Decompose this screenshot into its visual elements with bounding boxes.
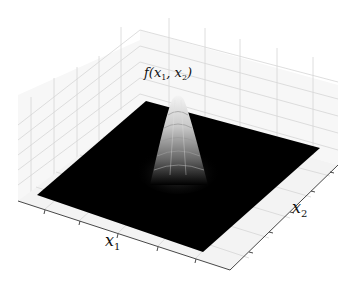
surface-plot: f(x1, x2) x1 x2 <box>0 0 357 283</box>
x2-axis-label: x2 <box>292 198 307 219</box>
